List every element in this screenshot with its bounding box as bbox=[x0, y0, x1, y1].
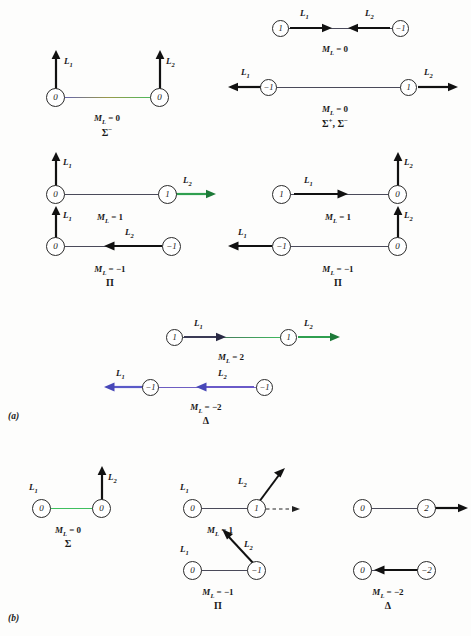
panel-label-b: (b) bbox=[8, 613, 19, 623]
node-left-b3: 0 bbox=[183, 561, 202, 580]
node-right-a5: −1 bbox=[162, 237, 181, 256]
node-right-a4: 1 bbox=[158, 185, 177, 204]
label-l2-b3: L2 bbox=[244, 540, 253, 551]
node-left-a4: 0 bbox=[46, 185, 65, 204]
term-symbol-b5: Δ bbox=[350, 600, 426, 612]
node-left-b4: 0 bbox=[353, 499, 372, 518]
label-l1-b3: L1 bbox=[180, 545, 189, 556]
arrow-l1-a8 bbox=[184, 331, 226, 343]
arrow-l2-a9 bbox=[196, 381, 254, 393]
node-right-b1: 0 bbox=[92, 499, 111, 518]
label-l2-b2: L2 bbox=[238, 477, 247, 488]
label-l1-a2: L1 bbox=[300, 9, 309, 20]
arrow-l2-a1 bbox=[154, 50, 166, 90]
label-l1-b2: L1 bbox=[180, 483, 189, 494]
arrow-l1-a2 bbox=[290, 22, 332, 34]
arrow-l1-a6 bbox=[294, 188, 348, 200]
node-left-a2: 1 bbox=[272, 20, 289, 37]
arrow-l2-a5 bbox=[104, 240, 162, 252]
ml-value-b3: ML = −1 bbox=[180, 587, 256, 600]
label-l1-a3: L1 bbox=[241, 68, 250, 79]
label-l2-a9: L2 bbox=[218, 369, 227, 380]
term-symbol-a9: Δ bbox=[168, 415, 244, 427]
ml-value-b5: ML = −2 bbox=[350, 587, 426, 600]
label-l2-a8: L2 bbox=[304, 319, 313, 330]
node-right-b5: −2 bbox=[417, 561, 436, 580]
label-l2-a3: L2 bbox=[424, 68, 433, 79]
ml-value-a9: ML = −2 bbox=[168, 402, 244, 415]
node-left-a6: 1 bbox=[272, 185, 291, 204]
label-l2-a6: L2 bbox=[404, 158, 413, 169]
node-right-a9: −1 bbox=[256, 379, 273, 396]
label-l2-a2: L2 bbox=[365, 9, 374, 20]
node-right-a6: 0 bbox=[388, 185, 407, 204]
label-l2-b1: L2 bbox=[108, 473, 117, 484]
label-l2-a4: L2 bbox=[183, 176, 192, 187]
label-l2-a1: L2 bbox=[166, 57, 175, 68]
ml-value-b1: ML = 0 bbox=[38, 525, 98, 538]
term-symbol-a1: Σ− bbox=[77, 126, 137, 139]
node-right-b2: 1 bbox=[247, 499, 266, 518]
ml-value-a2: ML = 0 bbox=[305, 44, 365, 57]
node-right-b3: −1 bbox=[247, 561, 266, 580]
node-left-a8: 1 bbox=[166, 329, 183, 346]
term-symbol-b3: Π bbox=[180, 600, 256, 612]
ml-value-a5: ML = −1 bbox=[75, 264, 145, 277]
node-left-a7: −1 bbox=[272, 237, 291, 256]
node-left-b1: 0 bbox=[32, 499, 51, 518]
label-l2-a5: L2 bbox=[125, 228, 134, 239]
arrow-l1-a1 bbox=[50, 50, 62, 90]
ml-value-a7: ML = −1 bbox=[303, 264, 373, 277]
ml-value-a4: ML = 1 bbox=[80, 212, 140, 225]
node-right-a1: 0 bbox=[150, 88, 169, 107]
node-left-b2: 0 bbox=[183, 499, 202, 518]
term-symbol-a7: Π bbox=[303, 277, 373, 289]
label-l1-a8: L1 bbox=[194, 319, 203, 330]
arrow-l1-a7 bbox=[228, 240, 272, 252]
label-l1-b1: L1 bbox=[29, 483, 38, 494]
arrow-l2-a3 bbox=[418, 81, 458, 93]
node-left-a1: 0 bbox=[46, 88, 65, 107]
label-l2-a7: L2 bbox=[404, 211, 413, 222]
arrow-projection-b2 bbox=[266, 503, 300, 515]
arrow-l2-a4 bbox=[176, 188, 216, 200]
arrow-l1-a3 bbox=[228, 81, 262, 93]
term-symbol-a5: Π bbox=[75, 277, 145, 289]
ml-value-b2: ML = 1 bbox=[185, 525, 255, 538]
label-l1-a1: L1 bbox=[64, 57, 73, 68]
label-l1-a9: L1 bbox=[116, 369, 125, 380]
node-left-a5: 0 bbox=[46, 237, 65, 256]
term-symbol-b1: Σ bbox=[38, 538, 98, 550]
node-right-b4: 2 bbox=[417, 499, 436, 518]
term-symbol-a3: Σ+, Σ− bbox=[300, 117, 370, 130]
label-l1-a5: L1 bbox=[63, 211, 72, 222]
node-right-a7: 0 bbox=[388, 237, 407, 256]
panel-label-a: (a) bbox=[8, 411, 19, 421]
node-right-a3: 1 bbox=[400, 79, 417, 96]
node-left-b5: 0 bbox=[353, 561, 372, 580]
ml-value-a8: ML = 2 bbox=[196, 352, 266, 365]
arrow-l1-a9 bbox=[104, 381, 144, 393]
arrow-l2-b4 bbox=[434, 502, 468, 514]
arrow-l2-a2 bbox=[348, 22, 390, 34]
label-l1-a6: L1 bbox=[304, 176, 313, 187]
node-left-a3: −1 bbox=[260, 79, 277, 96]
node-left-a9: −1 bbox=[142, 379, 159, 396]
ml-value-a6: ML = 1 bbox=[308, 212, 368, 225]
arrow-l2-a8 bbox=[298, 331, 340, 343]
label-l1-a7: L1 bbox=[238, 228, 247, 239]
ml-value-a3: ML = 0 bbox=[300, 104, 370, 117]
node-right-a2: −1 bbox=[392, 20, 409, 37]
arrow-l2-b5 bbox=[374, 564, 420, 576]
node-right-a8: 1 bbox=[280, 329, 297, 346]
label-l1-a4: L1 bbox=[63, 158, 72, 169]
ml-value-a1: ML = 0 bbox=[77, 113, 137, 126]
